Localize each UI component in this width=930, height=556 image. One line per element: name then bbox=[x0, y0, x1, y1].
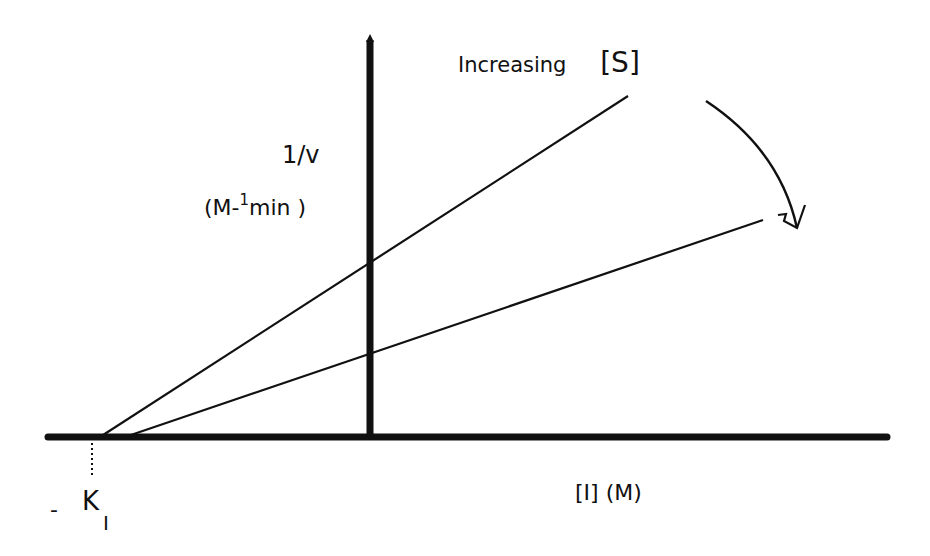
y-axis-label: 1/v bbox=[282, 141, 320, 169]
low-substrate-line bbox=[100, 96, 628, 437]
curved-arrow-icon bbox=[706, 101, 797, 228]
annotation-substrate: [S] bbox=[600, 46, 640, 79]
y-axis-units: (M-1min ) bbox=[204, 191, 306, 220]
high-substrate-line bbox=[125, 220, 763, 437]
ki-prefix: - bbox=[50, 497, 58, 522]
ki-main: K bbox=[82, 486, 100, 516]
x-axis-label: [I] (M) bbox=[575, 480, 642, 505]
dixon-plot-diagram: Increasing [S] 1/v (M-1min ) [I] (M) - K… bbox=[0, 0, 930, 556]
y-axis-tip bbox=[366, 34, 374, 42]
annotation-increasing: Increasing bbox=[458, 53, 566, 77]
ki-subscript: I bbox=[103, 511, 109, 535]
